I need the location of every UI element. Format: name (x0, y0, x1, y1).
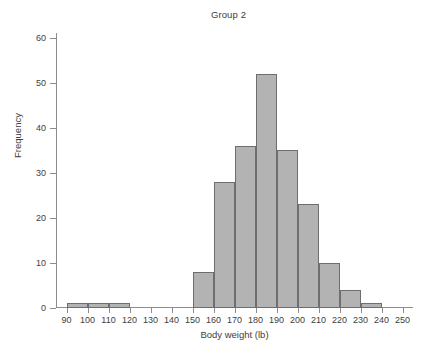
y-tick-label-30: 30 (0, 168, 46, 178)
x-tick-90 (67, 308, 68, 313)
x-tick-220 (340, 308, 341, 313)
x-tick-160 (214, 308, 215, 313)
y-tick-label-10: 10 (0, 258, 46, 268)
y-tick-label-0: 0 (0, 303, 46, 313)
histogram-bar (193, 272, 214, 308)
y-tick-10 (50, 263, 56, 264)
x-tick-130 (151, 308, 152, 313)
histogram-bar (214, 182, 235, 308)
y-tick-label-20: 20 (0, 213, 46, 223)
histogram-bar (361, 303, 382, 308)
x-tick-label-110: 110 (101, 315, 115, 325)
y-axis-line (56, 33, 57, 308)
x-tick-100 (88, 308, 89, 313)
histogram-figure: Group 2 0102030405060 901001101201301401… (0, 0, 433, 360)
x-tick-label-200: 200 (290, 315, 305, 325)
histogram-bar (319, 263, 340, 308)
x-tick-label-120: 120 (122, 315, 137, 325)
x-tick-label-210: 210 (311, 315, 326, 325)
y-tick-0 (50, 308, 56, 309)
y-tick-50 (50, 83, 56, 84)
y-tick-label-50: 50 (0, 78, 46, 88)
x-tick-label-230: 230 (353, 315, 368, 325)
x-tick-label-90: 90 (61, 315, 71, 325)
histogram-bar (298, 204, 319, 308)
x-tick-190 (277, 308, 278, 313)
x-tick-label-250: 250 (395, 315, 410, 325)
x-tick-label-240: 240 (374, 315, 389, 325)
x-tick-label-130: 130 (143, 315, 158, 325)
x-tick-180 (256, 308, 257, 313)
x-tick-200 (298, 308, 299, 313)
y-tick-label-40: 40 (0, 123, 46, 133)
x-tick-230 (361, 308, 362, 313)
x-tick-label-170: 170 (227, 315, 242, 325)
x-tick-label-160: 160 (206, 315, 221, 325)
x-tick-110 (109, 308, 110, 313)
x-tick-150 (193, 308, 194, 313)
x-tick-label-180: 180 (248, 315, 263, 325)
x-tick-label-190: 190 (269, 315, 284, 325)
histogram-bar (88, 303, 109, 308)
histogram-bar (277, 150, 298, 308)
histogram-bar (235, 146, 256, 308)
y-tick-40 (50, 128, 56, 129)
x-axis-title: Body weight (lb) (56, 329, 413, 340)
x-tick-240 (382, 308, 383, 313)
histogram-bar (109, 303, 130, 308)
x-tick-label-220: 220 (332, 315, 347, 325)
x-tick-140 (172, 308, 173, 313)
y-tick-30 (50, 173, 56, 174)
histogram-bar (340, 290, 361, 308)
y-tick-label-60: 60 (0, 33, 46, 43)
x-tick-label-100: 100 (80, 315, 95, 325)
x-tick-120 (130, 308, 131, 313)
y-tick-20 (50, 218, 56, 219)
chart-title: Group 2 (0, 9, 433, 20)
x-tick-210 (319, 308, 320, 313)
y-axis-title: Frequency (12, 66, 23, 206)
histogram-bar (67, 303, 88, 308)
x-tick-label-140: 140 (164, 315, 179, 325)
x-tick-label-150: 150 (185, 315, 200, 325)
y-tick-60 (50, 38, 56, 39)
histogram-bar (256, 74, 277, 308)
x-tick-250 (403, 308, 404, 313)
x-tick-170 (235, 308, 236, 313)
